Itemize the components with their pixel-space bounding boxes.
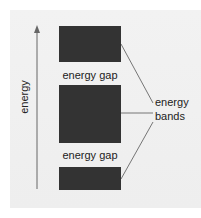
energy-bands-callout: energy bands [155, 95, 189, 123]
energy-axis-arrowhead-icon [34, 25, 40, 33]
energy-gap-label-upper: energy gap [55, 69, 125, 81]
callout-line-upper [121, 44, 153, 103]
energy-axis-label: energy [18, 80, 30, 114]
energy-gap-label-lower: energy gap [55, 149, 125, 161]
callout-line-lower [121, 122, 153, 179]
callout-line1: energy [155, 95, 189, 109]
energy-band-upper [59, 26, 121, 62]
callout-line2: bands [155, 109, 189, 123]
energy-band-middle [59, 85, 121, 143]
energy-band-lower [59, 167, 121, 190]
